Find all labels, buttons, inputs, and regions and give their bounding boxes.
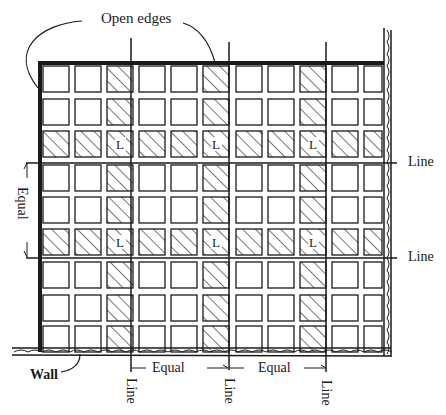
tile-layout-diagram: LLLLLL (0, 0, 446, 415)
tile-cut (107, 262, 133, 288)
tile-full (332, 99, 358, 125)
tile-cut (268, 131, 294, 157)
tile-full (364, 165, 382, 191)
tile-cut (332, 229, 358, 255)
tile-full (364, 99, 382, 125)
tile-full (75, 165, 101, 191)
tile-full (171, 262, 197, 288)
tile-cut (203, 295, 229, 321)
tile-cut (268, 229, 294, 255)
tile-full (236, 99, 262, 125)
tile-full (139, 165, 165, 191)
tile-full (171, 99, 197, 125)
tile-full (75, 99, 101, 125)
tile-full (364, 197, 382, 223)
tile-full (139, 262, 165, 288)
tile-full (43, 165, 69, 191)
tile-cut (171, 229, 197, 255)
label-open-edges: Open edges (101, 11, 171, 26)
tile-full (236, 165, 262, 191)
label-line-bottom-3: Line (319, 380, 333, 406)
l-marker: L (212, 235, 220, 250)
tile-full (43, 66, 69, 92)
tile-full (43, 197, 69, 223)
tile-full (139, 99, 165, 125)
tile-cut (203, 197, 229, 223)
wall-leader (61, 354, 80, 372)
label-equal-bottom-2: Equal (258, 361, 291, 375)
tile-cut (107, 295, 133, 321)
tile-cut (107, 66, 133, 92)
tile-full (43, 295, 69, 321)
tile-cut (203, 165, 229, 191)
tile-full (43, 99, 69, 125)
tile-full (332, 262, 358, 288)
open-edges-leader-right (183, 23, 215, 62)
tile-cut (203, 99, 229, 125)
l-marker: L (116, 235, 124, 250)
tile-full (332, 66, 358, 92)
label-line-right-1: Line (408, 155, 434, 169)
tile-full (268, 197, 294, 223)
tile-full (332, 165, 358, 191)
tile-full (332, 295, 358, 321)
tile-full (75, 66, 101, 92)
tile-full (364, 295, 382, 321)
tile-cut (236, 229, 262, 255)
tile-full (236, 197, 262, 223)
label-line-bottom-2: Line (222, 378, 236, 404)
l-marker: L (309, 137, 317, 152)
tile-cut (364, 131, 382, 157)
tile-full (171, 295, 197, 321)
tile-full (268, 165, 294, 191)
tile-cut (43, 131, 69, 157)
tile-cut (300, 66, 326, 92)
tile-cut (300, 99, 326, 125)
tile-cut (75, 229, 101, 255)
label-equal-left: Equal (15, 187, 29, 220)
tile-cut (203, 262, 229, 288)
tile-full (43, 262, 69, 288)
tile-full (268, 262, 294, 288)
tile-full (268, 295, 294, 321)
tile-cut (107, 197, 133, 223)
tile-full (364, 66, 382, 92)
tile-full (364, 262, 382, 288)
tile-full (332, 197, 358, 223)
label-wall: Wall (30, 368, 58, 382)
tile-full (75, 197, 101, 223)
tile-cut (139, 131, 165, 157)
tile-full (171, 197, 197, 223)
tile-cut (107, 99, 133, 125)
label-line-right-2: Line (408, 250, 434, 264)
tile-full (268, 99, 294, 125)
tile-cut (107, 165, 133, 191)
tile-cut (300, 295, 326, 321)
tile-full (139, 197, 165, 223)
l-marker: L (309, 235, 317, 250)
l-marker: L (212, 137, 220, 152)
tile-cut (139, 229, 165, 255)
l-marker: L (116, 137, 124, 152)
tile-grid: LLLLLL (43, 66, 382, 352)
right-wall (384, 28, 391, 357)
tile-full (171, 165, 197, 191)
tile-cut (364, 229, 382, 255)
label-line-bottom-1: Line (124, 378, 138, 404)
diagram-canvas: LLLLLL (0, 0, 446, 415)
tile-cut (300, 197, 326, 223)
tile-full (139, 66, 165, 92)
tile-full (268, 66, 294, 92)
tile-cut (75, 131, 101, 157)
tile-full (139, 295, 165, 321)
tile-full (236, 262, 262, 288)
tile-cut (332, 131, 358, 157)
tile-full (236, 66, 262, 92)
tile-full (171, 66, 197, 92)
tile-cut (203, 66, 229, 92)
tile-full (236, 295, 262, 321)
tile-cut (43, 229, 69, 255)
tile-cut (300, 165, 326, 191)
tile-full (75, 262, 101, 288)
tile-cut (300, 262, 326, 288)
